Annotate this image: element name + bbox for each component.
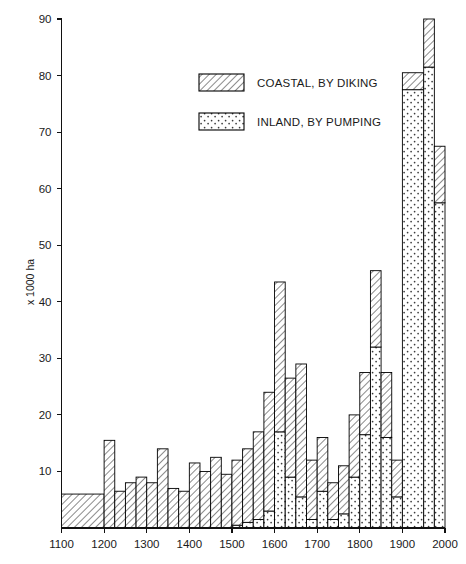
legend-label-coastal: COASTAL, BY DIKING	[257, 77, 378, 89]
chart-container: 1020304050607080901100120013001400150016…	[0, 0, 466, 564]
bar-segment-coastal	[402, 73, 423, 90]
bar-segment-coastal	[307, 460, 318, 519]
bar-group	[200, 471, 211, 528]
bar-group	[349, 415, 360, 528]
bar-segment-coastal	[221, 474, 232, 528]
bar-segment-coastal	[200, 471, 211, 528]
bar-segment-inland	[338, 514, 349, 528]
bar-group	[211, 457, 222, 528]
bar-group	[104, 440, 115, 528]
x-tick-label: 2000	[432, 538, 458, 550]
x-tick-label: 1400	[177, 538, 203, 550]
bar-segment-coastal	[360, 372, 371, 434]
bar-segment-inland	[360, 435, 371, 528]
y-tick-label: 20	[39, 409, 52, 421]
x-tick-label: 1300	[134, 538, 160, 550]
bar-group	[136, 477, 147, 528]
bar-group	[168, 488, 179, 528]
y-tick-label: 80	[39, 70, 52, 82]
bar-group	[125, 483, 136, 528]
bar-segment-coastal	[317, 438, 328, 492]
bar-group	[147, 483, 158, 528]
bar-segment-coastal	[434, 146, 445, 203]
bar-segment-coastal	[189, 463, 200, 528]
y-tick-label: 70	[39, 126, 52, 138]
y-tick-label: 50	[39, 239, 52, 251]
bar-segment-inland	[392, 497, 403, 528]
bar-segment-inland	[381, 438, 392, 528]
x-tick-label: 1700	[304, 538, 330, 550]
bar-segment-coastal	[136, 477, 147, 528]
bar-segment-inland	[434, 203, 445, 528]
cropped-title-artifact	[120, 0, 350, 9]
bar-group	[402, 73, 423, 528]
bar-segment-inland	[370, 347, 381, 528]
bar-group	[157, 449, 168, 528]
bar-segment-inland	[285, 477, 296, 528]
bar-segment-coastal	[338, 466, 349, 514]
bar-segment-coastal	[381, 372, 392, 437]
bar-group	[243, 449, 254, 528]
bar-group	[285, 378, 296, 528]
bar-segment-inland	[349, 477, 360, 528]
bar-segment-coastal	[211, 457, 222, 528]
bar-segment-coastal	[285, 378, 296, 477]
x-tick-label: 1600	[262, 538, 288, 550]
bar-segment-coastal	[253, 432, 264, 520]
bar-group	[275, 282, 286, 528]
chart-legend: COASTAL, BY DIKING INLAND, BY PUMPING	[199, 74, 381, 130]
bar-segment-coastal	[243, 449, 254, 523]
bar-group	[189, 463, 200, 528]
bar-group	[434, 146, 445, 528]
bar-segment-coastal	[424, 19, 435, 67]
y-tick-label: 60	[39, 183, 52, 195]
bar-group	[253, 432, 264, 528]
bar-segment-inland	[253, 520, 264, 528]
bar-segment-coastal	[392, 460, 403, 497]
bar-group	[115, 491, 126, 528]
bar-segment-inland	[328, 520, 339, 528]
y-tick-label: 40	[39, 296, 52, 308]
bar-segment-coastal	[349, 415, 360, 477]
bar-segment-inland	[317, 491, 328, 528]
bar-segment-coastal	[370, 271, 381, 347]
bar-segment-coastal	[62, 494, 105, 528]
bar-segment-coastal	[296, 364, 307, 497]
bar-segment-inland	[275, 432, 286, 528]
bar-group	[392, 460, 403, 528]
bar-group	[179, 491, 190, 528]
bar-group	[370, 271, 381, 528]
bar-segment-inland	[307, 520, 318, 528]
bar-group	[232, 460, 243, 528]
bar-group	[221, 474, 232, 528]
bar-group	[317, 438, 328, 528]
bar-segment-inland	[402, 90, 423, 528]
legend-swatch-inland	[199, 113, 244, 130]
bar-segment-inland	[264, 511, 275, 528]
bar-group	[296, 364, 307, 528]
legend-swatch-coastal	[199, 74, 244, 91]
x-tick-label: 1500	[219, 538, 245, 550]
bar-group	[360, 372, 371, 528]
bar-group	[264, 392, 275, 528]
bar-segment-coastal	[125, 483, 136, 528]
bar-segment-coastal	[328, 483, 339, 520]
bar-segment-coastal	[179, 491, 190, 528]
y-tick-label: 90	[39, 13, 52, 25]
y-tick-label: 30	[39, 352, 52, 364]
x-tick-label: 1900	[390, 538, 416, 550]
bar-segment-coastal	[115, 491, 126, 528]
bar-segment-coastal	[275, 282, 286, 432]
y-tick-label: 10	[39, 465, 52, 477]
bar-group	[307, 460, 318, 528]
bar-group	[424, 19, 435, 528]
bars-layer	[62, 19, 446, 528]
bar-segment-inland	[296, 497, 307, 528]
y-axis-title: x 1000 ha	[24, 259, 36, 305]
bar-segment-coastal	[104, 440, 115, 528]
bar-segment-coastal	[232, 460, 243, 525]
bar-group	[62, 494, 105, 528]
bar-group	[328, 483, 339, 528]
bar-segment-coastal	[147, 483, 158, 528]
x-tick-label: 1800	[347, 538, 373, 550]
